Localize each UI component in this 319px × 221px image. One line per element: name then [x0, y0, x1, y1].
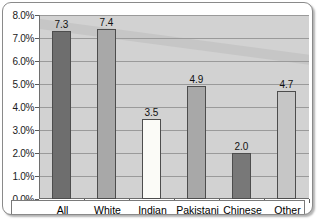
bar[interactable]: 2.0 [232, 153, 252, 199]
bar[interactable]: 7.4 [97, 29, 117, 199]
y-axis: 0.0%1.0%2.0%3.0%4.0%5.0%6.0%7.0%8.0% [3, 15, 37, 199]
gridline [40, 61, 309, 62]
gridline [40, 153, 309, 154]
bar-value-label: 7.4 [100, 17, 114, 28]
y-tick-mark [35, 84, 39, 85]
x-category-label: Indian [138, 204, 167, 216]
x-category-label: Chinese [223, 204, 262, 216]
y-tick-mark [35, 153, 39, 154]
bar[interactable]: 4.7 [277, 91, 297, 199]
y-tick-mark [35, 130, 39, 131]
gridline [40, 176, 309, 177]
y-tick-mark [35, 107, 39, 108]
y-tick-label: 3.0% [12, 125, 34, 136]
y-tick-mark [35, 38, 39, 39]
bar-value-label: 4.7 [280, 79, 294, 90]
chart-frame: 0.0%1.0%2.0%3.0%4.0%5.0%6.0%7.0%8.0% 7.3… [2, 2, 313, 215]
y-tick-label: 2.0% [12, 148, 34, 159]
bar-value-label: 2.0 [235, 141, 249, 152]
y-tick-label: 1.0% [12, 171, 34, 182]
y-tick-label: 7.0% [12, 33, 34, 44]
x-axis-category-band: AllWhiteIndianPakistaniChineseOther [11, 200, 305, 215]
x-category-label: All [57, 204, 69, 216]
y-tick-mark [35, 61, 39, 62]
plot-wrapper: 7.37.43.54.92.04.7 [39, 15, 309, 199]
y-tick-label: 5.0% [12, 79, 34, 90]
y-tick-mark [35, 15, 39, 16]
plot-area [39, 15, 309, 199]
y-tick-label: 8.0% [12, 10, 34, 21]
bar[interactable]: 7.3 [52, 31, 72, 199]
y-tick-mark [35, 176, 39, 177]
bar-value-label: 7.3 [55, 19, 69, 30]
gridline [40, 107, 309, 108]
x-category-label: Other [274, 204, 300, 216]
bar-value-label: 4.9 [190, 74, 204, 85]
x-tick-mark [309, 199, 310, 203]
gridline [40, 38, 309, 39]
gridline [40, 15, 309, 16]
y-tick-label: 6.0% [12, 56, 34, 67]
bar[interactable]: 4.9 [187, 86, 207, 199]
gridline [40, 84, 309, 85]
gridline [40, 130, 309, 131]
x-category-label: White [94, 204, 121, 216]
y-tick-label: 4.0% [12, 102, 34, 113]
bar[interactable]: 3.5 [142, 119, 162, 200]
x-category-label: Pakistani [176, 204, 219, 216]
bar-value-label: 3.5 [145, 107, 159, 118]
